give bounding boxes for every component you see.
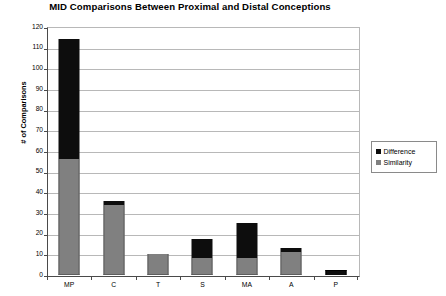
legend-swatch-icon bbox=[376, 149, 381, 154]
legend-label: Difference bbox=[384, 148, 416, 155]
bar-segment-difference bbox=[192, 239, 213, 259]
bar-P[interactable] bbox=[325, 270, 346, 275]
y-tick-label: 10 bbox=[15, 251, 43, 258]
bar-segment-difference bbox=[236, 223, 257, 258]
bar-segment-similarity bbox=[59, 159, 80, 275]
x-tick-label-A: A bbox=[269, 281, 313, 289]
y-tick-label: 100 bbox=[15, 65, 43, 72]
bar-S[interactable] bbox=[192, 239, 213, 275]
x-tick-label-MP: MP bbox=[47, 281, 91, 289]
bar-chart: MID Comparisons Between Proximal and Dis… bbox=[0, 0, 446, 296]
bar-segment-similarity bbox=[236, 258, 257, 275]
legend-item-similarity[interactable]: Similarity bbox=[376, 157, 433, 168]
x-tick-mark bbox=[314, 276, 315, 280]
legend-item-difference[interactable]: Difference bbox=[376, 146, 433, 157]
x-tick-mark bbox=[180, 276, 181, 280]
x-tick-label-C: C bbox=[91, 281, 135, 289]
bar-slot bbox=[314, 27, 358, 275]
x-tick-label-P: P bbox=[314, 281, 358, 289]
y-tick-label: 70 bbox=[15, 127, 43, 134]
y-tick-label: 90 bbox=[15, 86, 43, 93]
bar-A[interactable] bbox=[281, 248, 302, 275]
x-tick-mark bbox=[47, 276, 48, 280]
bar-segment-similarity bbox=[192, 258, 213, 275]
bar-T[interactable] bbox=[148, 254, 169, 275]
bar-slot bbox=[269, 27, 313, 275]
x-axis-tick-marks bbox=[47, 276, 358, 280]
bar-segment-similarity bbox=[281, 252, 302, 275]
y-tick-label: 80 bbox=[15, 106, 43, 113]
x-tick-label-T: T bbox=[136, 281, 180, 289]
y-tick-label: 20 bbox=[15, 230, 43, 237]
bar-MA[interactable] bbox=[236, 223, 257, 275]
y-tick-label: 30 bbox=[15, 210, 43, 217]
y-tick-label: 110 bbox=[15, 44, 43, 51]
bar-MP[interactable] bbox=[59, 39, 80, 275]
x-tick-mark bbox=[91, 276, 92, 280]
bar-segment-difference bbox=[59, 39, 80, 159]
y-tick-label: 40 bbox=[15, 189, 43, 196]
bar-slot bbox=[225, 27, 269, 275]
x-tick-mark bbox=[357, 276, 358, 280]
chart-title: MID Comparisons Between Proximal and Dis… bbox=[0, 1, 380, 12]
bar-slot bbox=[180, 27, 224, 275]
bar-segment-difference bbox=[325, 270, 346, 275]
bar-slot bbox=[136, 27, 180, 275]
x-tick-label-S: S bbox=[180, 281, 224, 289]
x-tick-mark bbox=[136, 276, 137, 280]
x-axis-tick-labels: MPCTSMAAP bbox=[47, 281, 358, 293]
bar-slot bbox=[47, 27, 91, 275]
x-tick-mark bbox=[225, 276, 226, 280]
y-axis-tick-labels: 1201101009080706050403020100 bbox=[15, 27, 43, 275]
bar-segment-similarity bbox=[148, 254, 169, 275]
y-tick-label: 120 bbox=[15, 24, 43, 31]
bar-slot bbox=[91, 27, 135, 275]
x-tick-mark bbox=[269, 276, 270, 280]
bars-layer bbox=[47, 27, 358, 275]
y-tick-label: 60 bbox=[15, 148, 43, 155]
bar-segment-similarity bbox=[103, 205, 124, 275]
y-tick-label: 0 bbox=[15, 272, 43, 279]
legend-label: Similarity bbox=[384, 159, 412, 166]
x-tick-label-MA: MA bbox=[225, 281, 269, 289]
legend-swatch-icon bbox=[376, 160, 381, 165]
bar-C[interactable] bbox=[103, 201, 124, 275]
y-tick-label: 50 bbox=[15, 168, 43, 175]
chart-legend: DifferenceSimilarity bbox=[371, 141, 437, 173]
